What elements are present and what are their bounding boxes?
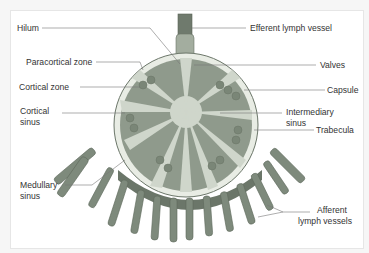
label-cortical-sinus-2: sinus bbox=[20, 117, 40, 127]
label-medullary-sinus-1: Medullary bbox=[20, 180, 57, 190]
label-cortical-sinus-1: Cortical bbox=[20, 106, 49, 116]
label-afferent-2: lymph vessels bbox=[298, 216, 352, 226]
label-cortical-zone: Cortical zone bbox=[19, 82, 69, 92]
label-hilum: Hilum bbox=[17, 23, 39, 33]
label-valves: Valves bbox=[320, 60, 345, 70]
label-intermediary-sinus-1: Intermediary bbox=[286, 107, 334, 117]
label-medullary-sinus-2: sinus bbox=[20, 191, 40, 201]
label-efferent-lymph-vessel: Efferent lymph vessel bbox=[250, 23, 332, 33]
label-trabecula: Trabecula bbox=[316, 125, 354, 135]
label-afferent-1: Afferent bbox=[317, 205, 347, 215]
label-capsule: Capsule bbox=[327, 85, 359, 95]
label-intermediary-sinus-2: sinus bbox=[286, 118, 306, 128]
label-paracortical-zone: Paracortical zone bbox=[26, 57, 92, 67]
